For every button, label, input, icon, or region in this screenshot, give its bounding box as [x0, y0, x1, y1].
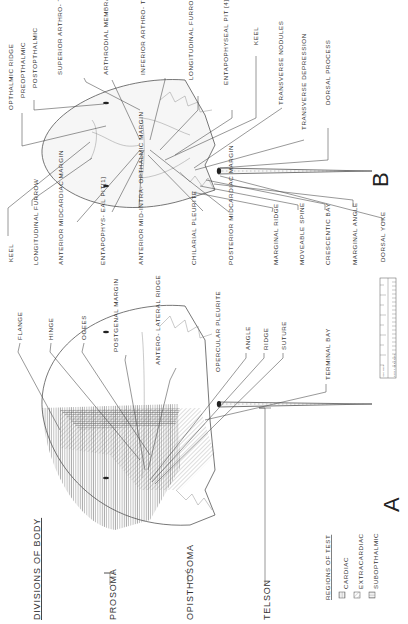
label-ogees: OGEES	[80, 315, 87, 340]
division-opisthosoma: OPISTHOSOMA	[185, 544, 195, 620]
label-hinge: HINGE	[47, 317, 54, 340]
label-ridge: RIDGE	[262, 327, 269, 350]
label-flange: FLANGE	[16, 312, 23, 340]
label-suture: SUTURE	[280, 321, 287, 350]
label-angle: ANGLE	[244, 326, 251, 350]
legend-extracardiac: EXTRACARDIAC	[357, 533, 364, 589]
label-longitudinal-furrow: LONGITUDINAL FURROW	[187, 0, 194, 80]
panel-a-crab	[42, 305, 372, 530]
horseshoe-crab-anatomy-diagram: OPTHALMIC RIDGE PREOPTHALMIC POSTOPTHALM…	[0, 0, 408, 624]
label-dorsal-process: DORSAL PROCESS	[324, 39, 331, 105]
label-postgenal-margin: POSTGENAL MARGIN	[112, 278, 119, 352]
legend-swatch-subopthalmic	[369, 592, 375, 598]
label-transverse-depression: TRANSVERSE DEPRESSION	[300, 33, 307, 130]
scale-unit-inches: INCHES	[382, 364, 385, 377]
label-entapophyseal-pit-4: ENTAPOPHYSEAL PIT [4]	[222, 0, 229, 85]
label-arthrodial-membrane: ARTHRODIAL MEMBRANE	[102, 0, 109, 75]
division-telson: TELSON	[262, 579, 272, 620]
label-terminal-bay: TERMINAL BAY	[324, 328, 331, 380]
label-opthalmic-ridge: OPTHALMIC RIDGE	[7, 44, 14, 110]
label-transverse-nodules: TRANSVERSE NODULES	[277, 21, 284, 105]
label-keel-bottom: KEEL	[7, 244, 14, 262]
label-posterior-midcardiac-margin: POSTERIOR MIDCARDIAC MARGIN	[227, 145, 234, 265]
panel-a-labels: FLANGE HINGE OGEES POSTGENAL MARGIN ANTE…	[16, 275, 331, 380]
label-anterior-mid-intra-opthalmic-margin: ANTERIOR MID-INTRA- OPTHALMIC MARGIN	[137, 111, 144, 265]
legend-regions-of-test: REGIONS OF TEST CARDIAC EXTRACARDIAC SUB…	[324, 533, 379, 600]
label-antero-lateral-ridge: ANTERO- LATERAL RIDGE	[154, 275, 161, 365]
legend-swatch-cardiac	[339, 592, 345, 598]
legend-cardiac: CARDIAC	[342, 557, 349, 589]
label-dorsal-yoke: DORSAL YOKE	[379, 211, 386, 262]
label-preopthalmic: PREOPTHALMIC	[19, 42, 26, 98]
scale-bar: INCHES CENTIMETERS	[380, 278, 396, 378]
label-crescentic-bay: CRESCENTIC BAY	[324, 203, 331, 265]
divisions-title: DIVISIONS OF BODY	[32, 518, 42, 620]
legend-swatch-extracardiac	[354, 592, 360, 598]
label-marginal-ridge: MARGINAL RIDGE	[272, 203, 279, 265]
label-anterior-midcardiac-margin: ANTERIOR MIDCARDIAC MARGIN	[57, 150, 64, 265]
label-superior-arthrotergal-arch: SUPERIOR ARTHRO- TERGAL ARCH	[56, 0, 63, 75]
label-inferior-arthrotergal-arch: INFERIOR ARTHRO- TERGAL ARCH	[139, 0, 146, 75]
division-prosoma: PROSOMA	[108, 568, 118, 620]
label-keel-top: KEEL	[252, 27, 259, 45]
panel-b-crab	[42, 80, 372, 208]
label-moveable-spine: MOVEABLE SPINE	[298, 202, 305, 265]
panel-label-b: B	[368, 172, 393, 187]
legend-subopthalmic: SUBOPTHALMIC	[372, 533, 379, 589]
label-longitudinal-furrow-b: LONGITUDINAL FURROW	[32, 179, 39, 265]
label-opercular-pleurite: OPERCULAR PLEURITE	[214, 291, 221, 372]
panel-label-a: A	[379, 497, 404, 512]
legend-title: REGIONS OF TEST	[324, 535, 331, 600]
label-postopthalmic: POSTOPTHALMIC	[31, 27, 38, 88]
scale-unit-centimeters: CENTIMETERS	[393, 353, 396, 377]
